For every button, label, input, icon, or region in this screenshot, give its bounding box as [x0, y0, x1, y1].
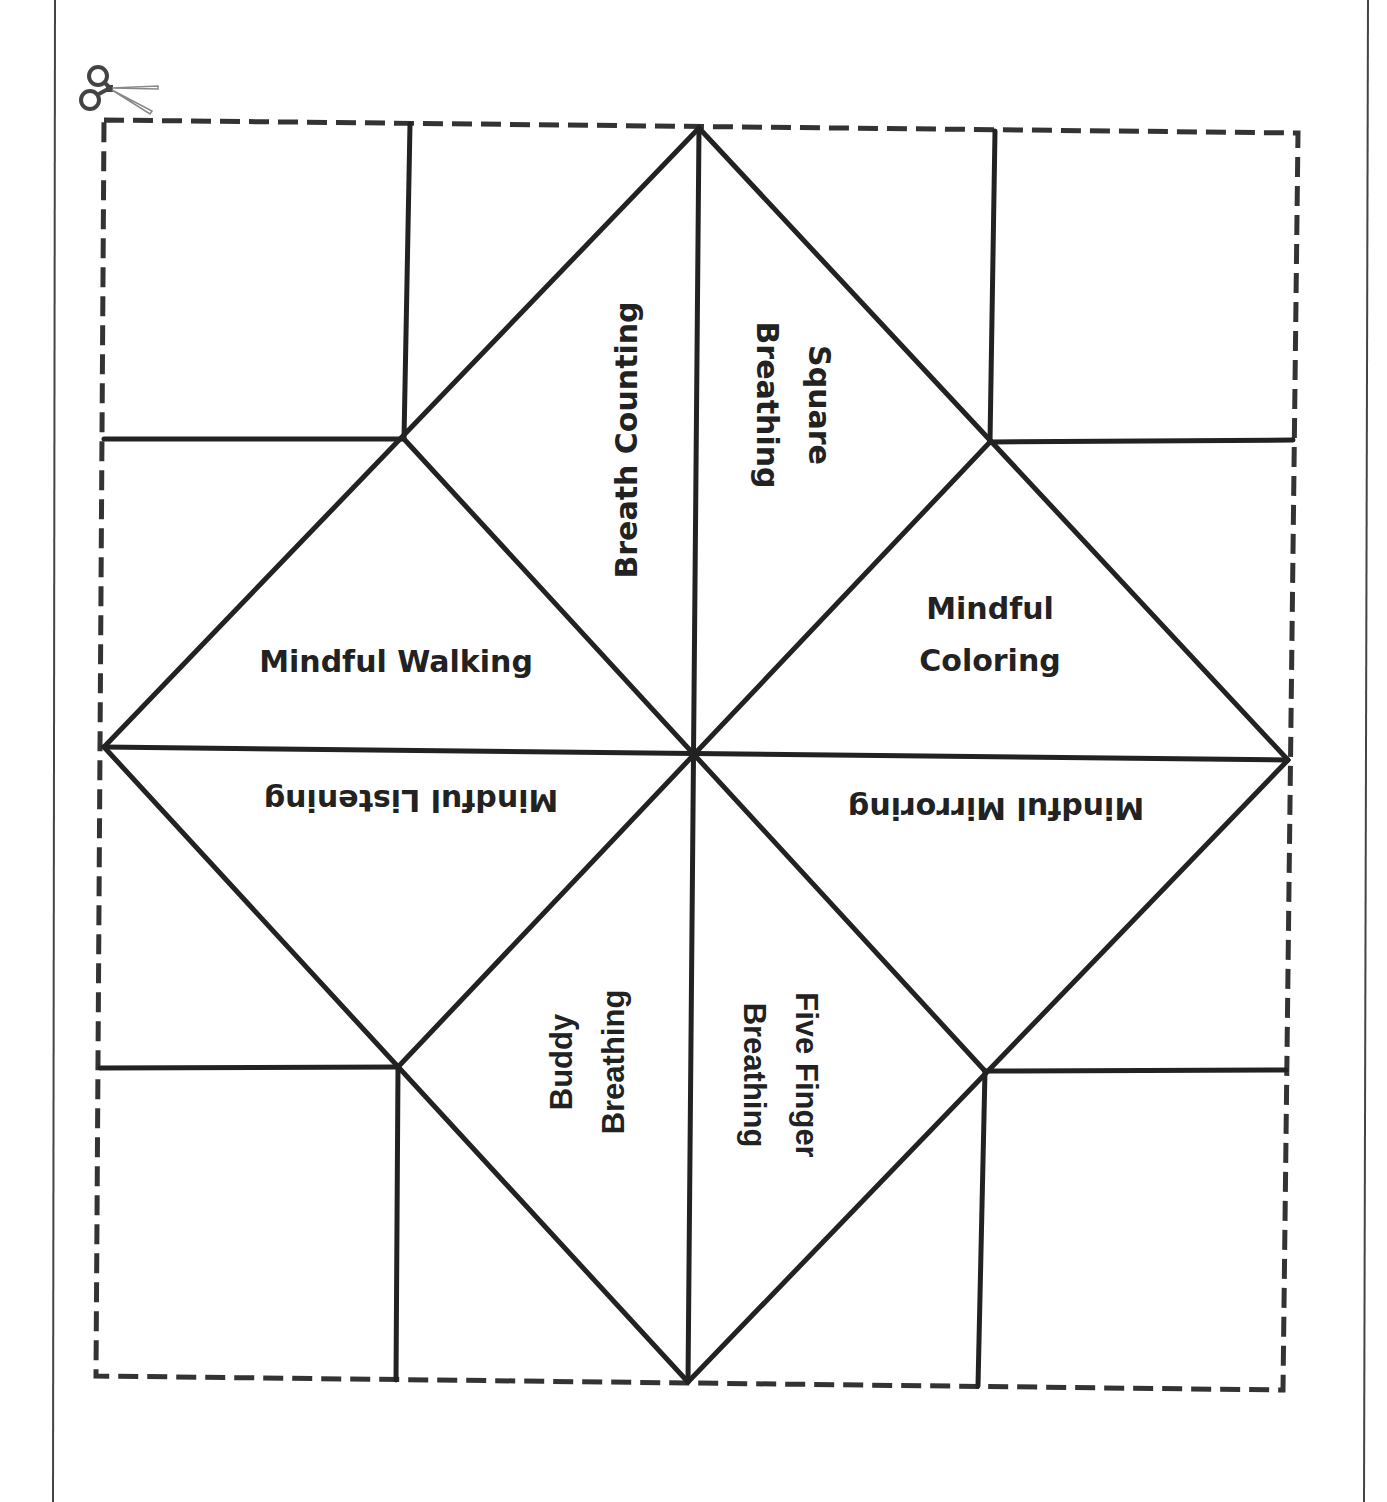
label-mindful-mirroring: Mindful Mirroring	[848, 791, 1144, 826]
label-mindful-walking: Mindful Walking	[259, 644, 533, 679]
fortune-teller-template: Breath CountingSquareBreathingMindful Wa…	[0, 0, 1387, 1502]
label-mindful-coloring: MindfulColoring	[919, 591, 1060, 678]
flap-line	[990, 440, 1293, 442]
label-square-breathing: SquareBreathing	[750, 321, 837, 488]
label-breath-counting: Breath Counting	[609, 301, 644, 578]
label-mindful-listening: Mindful Listening	[264, 783, 559, 818]
flap-line	[978, 1071, 985, 1386]
flap-line	[990, 131, 995, 442]
flap-line	[396, 1067, 398, 1380]
worksheet-page: Breath CountingSquareBreathingMindful Wa…	[0, 0, 1387, 1502]
page-left-border	[53, 0, 55, 1502]
flap-line	[100, 1067, 398, 1068]
page-right-border	[1364, 0, 1368, 1502]
label-five-finger-breathing: Five FingerBreathing	[737, 992, 824, 1157]
label-buddy-breathing: BuddyBreathing	[544, 990, 631, 1135]
activity-labels: Breath CountingSquareBreathingMindful Wa…	[259, 301, 1144, 1157]
flap-line	[404, 124, 410, 439]
fold-lines	[100, 124, 1293, 1386]
scissors-icon	[81, 67, 158, 114]
flap-line	[985, 1070, 1286, 1071]
